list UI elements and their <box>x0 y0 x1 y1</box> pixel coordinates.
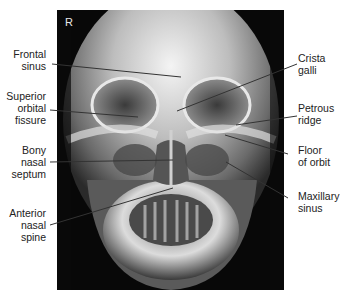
label-line: nasal <box>9 219 46 231</box>
label-line: nasal <box>12 156 46 168</box>
label-bony-nasal-septum: Bony nasal septum <box>12 144 46 180</box>
label-line: ridge <box>298 114 334 126</box>
label-petrous-ridge: Petrous ridge <box>298 102 334 126</box>
label-frontal-sinus: Frontal sinus <box>13 48 46 72</box>
label-line: of orbit <box>298 156 330 168</box>
label-line: Anterior <box>9 207 46 219</box>
label-line: Bony <box>12 144 46 156</box>
label-line: sinus <box>13 60 46 72</box>
label-line: Petrous <box>298 102 334 114</box>
label-crista-galli: Crista galli <box>298 52 325 76</box>
label-floor-of-orbit: Floor of orbit <box>298 144 330 168</box>
label-line: galli <box>298 64 325 76</box>
label-maxillary-sinus: Maxillary sinus <box>298 190 339 214</box>
label-line: Floor <box>298 144 330 156</box>
label-line: Maxillary <box>298 190 339 202</box>
label-line: Frontal <box>13 48 46 60</box>
skull-xray-image: R <box>57 10 284 290</box>
label-line: orbital <box>6 102 46 114</box>
label-superior-orbital-fissure: Superior orbital fissure <box>6 90 46 126</box>
side-marker-r: R <box>65 16 73 28</box>
label-line: sinus <box>298 202 339 214</box>
label-line: Crista <box>298 52 325 64</box>
label-anterior-nasal-spine: Anterior nasal spine <box>9 207 46 243</box>
label-line: fissure <box>6 114 46 126</box>
label-line: spine <box>9 231 46 243</box>
label-line: Superior <box>6 90 46 102</box>
xray-graphic <box>57 10 284 290</box>
label-line: septum <box>12 168 46 180</box>
